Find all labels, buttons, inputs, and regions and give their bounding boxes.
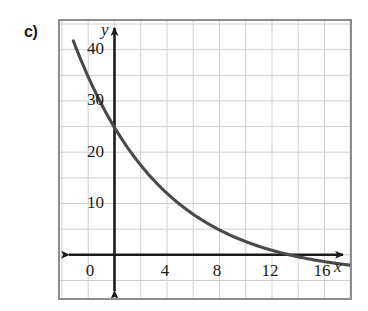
- y-tick-label-30: 30: [74, 91, 104, 108]
- y-tick-label-10: 10: [74, 194, 104, 211]
- x-tick-label-4: 4: [153, 262, 177, 279]
- y-axis-name: y: [101, 21, 109, 38]
- figure-screenshot: c): [0, 0, 368, 311]
- x-tick-label-8: 8: [205, 262, 229, 279]
- y-tick-label-20: 20: [74, 143, 104, 160]
- y-tick-label-40: 40: [74, 40, 104, 57]
- part-label: c): [24, 23, 37, 41]
- x-axis-name: x: [334, 258, 342, 275]
- grid-vertical: [62, 21, 350, 298]
- x-tick-label-12: 12: [258, 262, 282, 279]
- x-tick-label-0: 0: [78, 262, 102, 279]
- x-tick-label-16: 16: [310, 262, 334, 279]
